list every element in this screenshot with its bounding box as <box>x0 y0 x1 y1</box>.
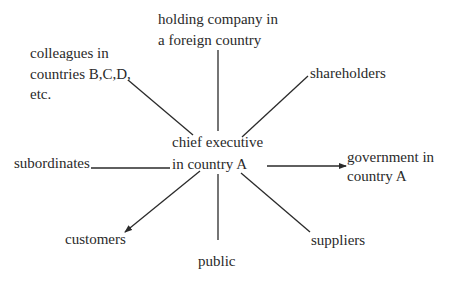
node-government: government in country A <box>347 149 435 184</box>
node-colleagues: colleagues in countries B,C,D, etc. <box>30 45 131 102</box>
public-label: public <box>198 253 236 269</box>
node-subordinates: subordinates <box>14 155 90 171</box>
stakeholder-diagram: chief executive in country A holding com… <box>0 0 449 284</box>
node-holding-company: holding company in a foreign country <box>158 11 278 48</box>
center-node-chief-executive: chief executive in country A <box>172 134 264 172</box>
edge-colleagues <box>128 80 193 135</box>
edge-shareholders <box>242 76 308 137</box>
node-shareholders: shareholders <box>310 65 386 81</box>
node-customers: customers <box>65 231 126 247</box>
node-suppliers: suppliers <box>311 232 365 248</box>
center-label-line2: in country A <box>172 156 247 172</box>
government-line1: government in <box>347 149 435 165</box>
subordinates-label: subordinates <box>14 155 90 171</box>
government-line2: country A <box>347 168 407 184</box>
holding-company-line1: holding company in <box>158 11 278 27</box>
edge-suppliers <box>241 173 310 232</box>
colleagues-line3: etc. <box>30 86 51 102</box>
node-public: public <box>198 253 236 269</box>
holding-company-line2: a foreign country <box>158 32 262 48</box>
shareholders-label: shareholders <box>310 65 386 81</box>
center-label-line1: chief executive <box>172 134 264 150</box>
colleagues-line1: colleagues in <box>30 45 109 61</box>
edge-customers-arrow <box>125 171 200 232</box>
customers-label: customers <box>65 231 126 247</box>
colleagues-line2: countries B,C,D, <box>30 66 131 82</box>
suppliers-label: suppliers <box>311 232 365 248</box>
